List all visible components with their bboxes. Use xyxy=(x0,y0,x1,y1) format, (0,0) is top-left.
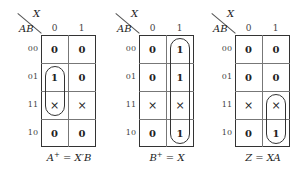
cell-11-0: × xyxy=(235,91,262,119)
column-header-1: 1 xyxy=(68,23,95,33)
column-variable-label: X xyxy=(131,8,138,19)
kmap-a-plus: X AB 0 1 00 01 11 10 0 0 1 0 × × 0 0 A+ … xyxy=(0,0,100,172)
cell-11-0: × xyxy=(139,91,166,119)
grouping-loop xyxy=(45,66,65,116)
row-header-10: 10 xyxy=(118,128,136,137)
cell-01-0: 0 xyxy=(139,63,166,91)
caption-lhs: A xyxy=(47,152,54,163)
kmap-b-plus: X AB 0 1 00 01 11 10 0 1 0 1 × × 0 1 B+ … xyxy=(98,0,198,172)
grouping-loop xyxy=(266,94,286,144)
caption-rhs: = X′B xyxy=(60,152,91,163)
column-header-0: 0 xyxy=(41,23,68,33)
cell-10-1: 0 xyxy=(68,119,96,147)
row-header-10: 10 xyxy=(214,128,232,137)
cell-00-1: 0 xyxy=(262,35,290,63)
cell-01-1: 0 xyxy=(68,63,96,91)
row-header-11: 11 xyxy=(118,100,136,109)
column-variable-label: X xyxy=(227,8,234,19)
row-header-01: 01 xyxy=(214,72,232,81)
row-header-10: 10 xyxy=(20,128,38,137)
cell-00-0: 0 xyxy=(41,35,68,63)
row-header-11: 11 xyxy=(20,100,38,109)
row-header-00: 00 xyxy=(118,44,136,53)
kmap-z: X AB 0 1 00 01 11 10 0 0 0 0 × × 0 1 Z =… xyxy=(194,0,294,172)
caption-rhs: = XA xyxy=(252,152,281,163)
cell-10-0: 0 xyxy=(41,119,68,147)
cell-01-0: 0 xyxy=(235,63,262,91)
column-header-0: 0 xyxy=(235,23,262,33)
cell-11-1: × xyxy=(68,91,96,119)
cell-00-0: 0 xyxy=(235,35,262,63)
cell-10-0: 0 xyxy=(235,119,262,147)
grouping-loop xyxy=(170,38,190,144)
row-header-01: 01 xyxy=(20,72,38,81)
kmap-caption: Z = XA xyxy=(223,151,301,163)
kmap-caption: A+ = X′B xyxy=(29,151,109,163)
column-variable-label: X xyxy=(33,8,40,19)
caption-rhs: = X xyxy=(163,152,185,163)
cell-00-0: 0 xyxy=(139,35,166,63)
cell-10-0: 0 xyxy=(139,119,166,147)
row-header-00: 00 xyxy=(20,44,38,53)
column-header-0: 0 xyxy=(139,23,166,33)
row-header-00: 00 xyxy=(214,44,232,53)
column-header-1: 1 xyxy=(166,23,193,33)
row-variable-label: AB xyxy=(19,23,34,34)
row-variable-label: AB xyxy=(213,23,228,34)
row-header-01: 01 xyxy=(118,72,136,81)
column-header-1: 1 xyxy=(262,23,289,33)
cell-00-1: 0 xyxy=(68,35,96,63)
row-header-11: 11 xyxy=(214,100,232,109)
caption-lhs: B xyxy=(149,152,156,163)
row-variable-label: AB xyxy=(117,23,132,34)
cell-01-1: 0 xyxy=(262,63,290,91)
